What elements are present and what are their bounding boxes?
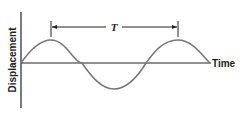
wave-diagram: T Time Displacement <box>0 0 242 114</box>
sine-wave <box>21 40 210 89</box>
arrow-right-icon <box>172 25 177 29</box>
x-axis-label: Time <box>212 58 236 69</box>
period-label: T <box>111 21 119 33</box>
arrow-left-icon <box>52 25 57 29</box>
y-axis-label: Displacement <box>7 27 18 93</box>
